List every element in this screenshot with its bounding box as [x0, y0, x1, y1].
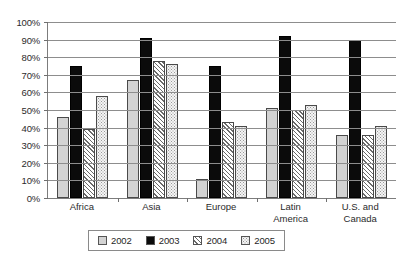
x-axis-label-africa: Africa: [47, 201, 117, 213]
y-axis-tickmark: [44, 57, 48, 58]
bar-europe-2003: [209, 66, 221, 198]
x-axis-label-latin-america: Latin America: [256, 201, 326, 225]
gridline: [48, 22, 396, 23]
gridline: [48, 92, 396, 93]
y-axis-tick-label: 20%: [22, 157, 40, 168]
y-axis-tick-label: 70%: [22, 69, 40, 80]
bar-africa-2005: [96, 96, 108, 198]
plot-area: [47, 22, 396, 199]
bar-u-s-and-canada-2004: [362, 135, 374, 198]
y-axis-tickmark: [44, 75, 48, 76]
bar-latin-america-2003: [279, 36, 291, 198]
y-axis-tick-label: 90%: [22, 34, 40, 45]
bar-chart-figure: 100%90%80%70%60%50%40%30%20%10%0% Africa…: [0, 0, 406, 261]
legend-label-2004: 2004: [206, 235, 227, 246]
gridline: [48, 75, 396, 76]
x-axis-label-asia: Asia: [117, 201, 187, 213]
gridline: [48, 57, 396, 58]
legend-item-2002[interactable]: 2002: [98, 235, 132, 246]
x-axis-category-labels: AfricaAsiaEuropeLatin AmericaU.S. and Ca…: [47, 201, 395, 231]
legend-item-2003[interactable]: 2003: [146, 235, 180, 246]
bar-africa-2003: [70, 66, 82, 198]
bar-u-s-and-canada-2002: [336, 135, 348, 198]
legend-swatch-2005: [241, 236, 250, 245]
gridline: [48, 145, 396, 146]
gridline: [48, 40, 396, 41]
y-axis-tickmark: [44, 163, 48, 164]
gridline: [48, 128, 396, 129]
y-axis-tick-label: 50%: [22, 105, 40, 116]
y-axis-tick-label: 40%: [22, 122, 40, 133]
gridline: [48, 110, 396, 111]
bar-latin-america-2004: [292, 110, 304, 198]
legend-item-2004[interactable]: 2004: [193, 235, 227, 246]
bar-latin-america-2005: [305, 105, 317, 198]
gridline: [48, 180, 396, 181]
bar-asia-2004: [153, 61, 165, 198]
x-axis-label-u-s-and-canada: U.S. and Canada: [325, 201, 395, 225]
y-axis-tickmark: [44, 128, 48, 129]
y-axis-tick-label: 10%: [22, 175, 40, 186]
bar-asia-2003: [140, 38, 152, 198]
bar-u-s-and-canada-2003: [349, 40, 361, 198]
y-axis-tickmark: [44, 40, 48, 41]
bar-asia-2005: [166, 64, 178, 198]
y-axis-tickmark: [44, 180, 48, 181]
chart-legend: 2002200320042005: [88, 230, 285, 251]
x-axis-label-europe: Europe: [186, 201, 256, 213]
y-axis-tickmark: [44, 22, 48, 23]
y-axis-tickmark: [44, 198, 48, 199]
y-axis-tick-label: 0%: [27, 193, 40, 204]
legend-label-2003: 2003: [159, 235, 180, 246]
y-axis-tickmark: [44, 92, 48, 93]
legend-swatch-2002: [98, 236, 107, 245]
plot-wrapper: 100%90%80%70%60%50%40%30%20%10%0% Africa…: [0, 0, 406, 205]
y-axis-tickmark: [44, 145, 48, 146]
legend-swatch-2003: [146, 236, 155, 245]
bar-africa-2002: [57, 117, 69, 198]
legend-label-2002: 2002: [111, 235, 132, 246]
bar-europe-2004: [222, 122, 234, 198]
y-axis-tick-label: 60%: [22, 87, 40, 98]
bar-latin-america-2002: [266, 108, 278, 198]
gridline: [48, 163, 396, 164]
y-axis-tick-label: 80%: [22, 52, 40, 63]
y-axis-tickmark: [44, 110, 48, 111]
legend-swatch-2004: [193, 236, 202, 245]
y-axis-tick-label: 30%: [22, 140, 40, 151]
y-axis-tick-label: 100%: [17, 17, 41, 28]
bar-europe-2002: [196, 179, 208, 198]
legend-item-2005[interactable]: 2005: [241, 235, 275, 246]
legend-label-2005: 2005: [254, 235, 275, 246]
y-axis-tick-labels: 100%90%80%70%60%50%40%30%20%10%0%: [0, 16, 40, 198]
